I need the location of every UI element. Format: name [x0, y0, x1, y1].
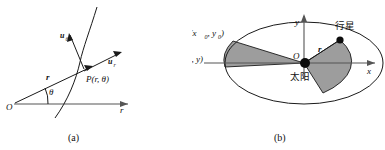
sun-marker: [300, 58, 310, 68]
figure-root: O r θ r u θ u r P(r, θ) (a): [0, 0, 385, 150]
origin-label-b: O: [293, 51, 300, 61]
position-vector-label: r: [46, 72, 50, 82]
panel-a-svg: O r θ r u θ u r P(r, θ) (a): [0, 0, 192, 150]
panel-a-polar-unit-vectors: O r θ r u θ u r P(r, θ) (a): [0, 0, 192, 150]
y-axis-label: y: [294, 17, 299, 27]
planet-marker: [336, 36, 343, 43]
sun-label: 太阳: [290, 71, 310, 82]
panel-b-kepler-ellipse: y x O r 太阳 行星 B(x 0 , y 0 ) D(x, y) (b): [192, 0, 385, 150]
svg-text:u: u: [108, 57, 113, 66]
point-p-label: P(r, θ): [85, 74, 109, 84]
planet-label: 行星: [335, 20, 355, 31]
trajectory-curve: [55, 7, 97, 118]
r-axis-label: r: [120, 105, 124, 115]
svg-text:θ: θ: [66, 36, 69, 42]
unit-vector-utheta: [67, 33, 84, 69]
ur-label: u r: [108, 57, 117, 68]
theta-arc: [45, 88, 48, 104]
caption-a: (a): [68, 132, 79, 144]
radius-label: r: [318, 44, 322, 54]
r-axis: [14, 101, 128, 107]
position-vector-r: [15, 65, 93, 103]
x-axis-label: x: [366, 66, 371, 76]
y-axis: [301, 14, 307, 79]
svg-text:r: r: [114, 62, 117, 68]
theta-angle-label: θ: [49, 87, 54, 97]
svg-text:u: u: [60, 31, 65, 40]
y-axis-arrowhead: [301, 14, 307, 22]
panel-b-svg: y x O r 太阳 行星 B(x 0 , y 0 ) D(x, y) (b): [192, 0, 385, 150]
svg-text:, y: , y: [208, 28, 217, 38]
caption-b: (b): [274, 132, 286, 144]
point-b-label: B(x 0 , y 0 ): [192, 28, 224, 40]
point-d-label: D(x, y): [192, 54, 203, 64]
unit-vector-ur: [84, 51, 122, 71]
svg-text:B(x: B(x: [192, 28, 197, 38]
utheta-label: u θ: [60, 31, 69, 42]
origin-label-a: O: [6, 102, 13, 112]
svg-text:): ): [220, 28, 224, 38]
